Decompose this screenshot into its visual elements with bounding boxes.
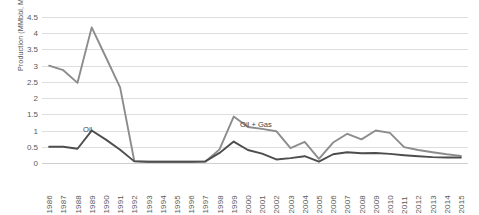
- x-tick-label-2004: 2004: [301, 195, 310, 214]
- y-tick-label-0: 0: [18, 159, 38, 168]
- y-tick-label-3.5: 3.5: [18, 45, 38, 54]
- y-tick-label-3: 3: [18, 61, 38, 70]
- x-tick-label-1986: 1986: [45, 195, 54, 214]
- y-tick-label-1.5: 1.5: [18, 110, 38, 119]
- x-tick-label-1998: 1998: [216, 195, 225, 214]
- x-tick-label-1987: 1987: [59, 195, 68, 214]
- y-axis-tick-labels: 00.511.522.533.544.5: [18, 0, 38, 215]
- x-tick-label-1997: 1997: [201, 195, 210, 214]
- x-tick-label-2000: 2000: [244, 195, 253, 214]
- y-tick-label-4.5: 4.5: [18, 13, 38, 22]
- x-tick-label-2006: 2006: [329, 195, 338, 214]
- x-tick-label-1988: 1988: [74, 195, 83, 214]
- x-tick-label-2001: 2001: [258, 195, 267, 214]
- x-tick-label-2015: 2015: [457, 195, 466, 214]
- series-lines: [42, 17, 468, 163]
- x-tick-label-1995: 1995: [173, 195, 182, 214]
- x-tick-label-1996: 1996: [187, 195, 196, 214]
- y-tick-label-1: 1: [18, 126, 38, 135]
- x-tick-label-2008: 2008: [358, 195, 367, 214]
- y-tick-label-2: 2: [18, 94, 38, 103]
- series-annotation-oil: Oil: [83, 125, 92, 134]
- x-tick-label-2010: 2010: [386, 195, 395, 214]
- x-tick-label-2003: 2003: [287, 195, 296, 214]
- production-line-chart: Production (MMbbl, MMboe) 00.511.522.533…: [0, 0, 479, 215]
- x-tick-label-2007: 2007: [343, 195, 352, 214]
- series-line-oil: [49, 131, 461, 162]
- y-tick-label-2.5: 2.5: [18, 77, 38, 86]
- x-tick-label-1991: 1991: [116, 195, 125, 214]
- x-tick-label-2011: 2011: [400, 196, 409, 214]
- x-tick-label-1992: 1992: [130, 195, 139, 214]
- x-tick-label-2014: 2014: [443, 195, 452, 214]
- plot-area: [42, 17, 468, 163]
- x-tick-label-2012: 2012: [414, 195, 423, 214]
- x-tick-label-2005: 2005: [315, 195, 324, 214]
- x-tick-label-2009: 2009: [372, 195, 381, 214]
- y-tick-label-4: 4: [18, 29, 38, 38]
- x-tick-label-2013: 2013: [429, 195, 438, 214]
- x-tick-label-1990: 1990: [102, 195, 111, 214]
- x-tick-label-1994: 1994: [159, 195, 168, 214]
- series-line-oil-gas: [49, 27, 461, 161]
- x-tick-label-1999: 1999: [230, 195, 239, 214]
- x-tick-label-1989: 1989: [88, 195, 97, 214]
- x-tick-label-2002: 2002: [272, 195, 281, 214]
- x-tick-label-1993: 1993: [145, 195, 154, 214]
- x-axis-tick-labels: 1986198719881989199019911992199319941995…: [42, 164, 468, 214]
- y-tick-label-0.5: 0.5: [18, 142, 38, 151]
- series-annotation-oil-gas: Oil + Gas: [240, 120, 272, 129]
